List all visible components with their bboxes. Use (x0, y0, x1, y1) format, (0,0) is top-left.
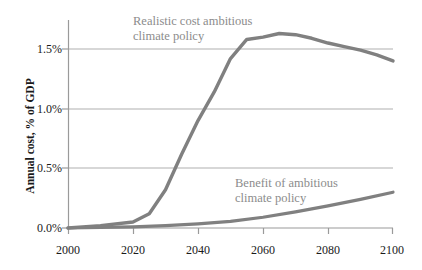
x-tick-label: 2020 (111, 243, 155, 258)
x-tick-label: 2040 (176, 243, 220, 258)
chart-figure: Annual cost, % of GDP 1.5% 1.0% 0.5% 0.0… (0, 0, 422, 270)
x-tick-label: 2060 (241, 243, 285, 258)
y-tick-marks (62, 49, 68, 228)
series-line-realistic-cost (68, 33, 393, 228)
x-tick-label: 2100 (370, 243, 414, 258)
x-tick-label: 2000 (46, 243, 90, 258)
annotation-benefit: Benefit of ambitious climate policy (235, 176, 338, 206)
x-tick-marks (69, 228, 393, 234)
x-tick-label: 2080 (306, 243, 350, 258)
x-axis-tick-labels: 2000 2020 2040 2060 2080 2100 (0, 243, 422, 263)
gridlines (68, 49, 393, 168)
axis-lines (68, 20, 393, 228)
annotation-realistic-cost: Realistic cost ambitious climate policy (133, 14, 252, 44)
